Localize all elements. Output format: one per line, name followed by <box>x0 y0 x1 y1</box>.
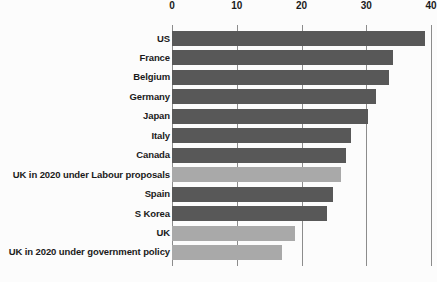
bar <box>172 31 425 46</box>
bar <box>172 167 341 182</box>
category-label: US <box>0 34 170 44</box>
bar <box>172 148 346 163</box>
x-tick-label-40: 40 <box>425 0 436 11</box>
x-tick-label-30: 30 <box>361 0 372 11</box>
category-label: Spain <box>0 189 170 199</box>
gridline-30 <box>366 31 367 266</box>
category-label: France <box>0 53 170 63</box>
bar <box>172 206 327 221</box>
category-label: UK in 2020 under government policy <box>0 247 170 257</box>
category-label: Belgium <box>0 72 170 82</box>
bar <box>172 226 295 241</box>
category-label: Canada <box>0 150 170 160</box>
gridline-40 <box>431 31 432 266</box>
bar <box>172 128 351 143</box>
category-label: Germany <box>0 92 170 102</box>
category-label: UK in 2020 under Labour proposals <box>0 170 170 180</box>
category-label: UK <box>0 228 170 238</box>
x-axis: 010203040 <box>172 0 431 31</box>
bar <box>172 70 389 85</box>
category-axis-labels: USFranceBelgiumGermanyJapanItalyCanadaUK… <box>0 0 170 282</box>
category-label: Italy <box>0 131 170 141</box>
x-tick-label-20: 20 <box>296 0 307 11</box>
x-tick-label-10: 10 <box>231 0 242 11</box>
x-tick-label-0: 0 <box>169 0 175 11</box>
plot-area <box>172 31 431 266</box>
bar <box>172 187 333 202</box>
bar <box>172 245 282 260</box>
bar <box>172 109 368 124</box>
bar <box>172 89 376 104</box>
bar <box>172 50 393 65</box>
category-label: Japan <box>0 111 170 121</box>
category-label: S Korea <box>0 209 170 219</box>
